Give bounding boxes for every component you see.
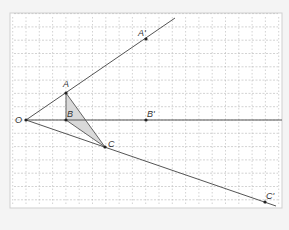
homothety-diagram: OABCA'B'C' — [0, 0, 289, 230]
label-b2: B' — [147, 109, 155, 119]
label-a2: A' — [137, 28, 146, 38]
point-a — [64, 91, 67, 94]
label-c: C — [108, 139, 115, 149]
label-a: A — [62, 79, 69, 89]
label-c2: C' — [266, 191, 274, 201]
label-o: O — [15, 115, 22, 125]
grid — [13, 14, 279, 204]
label-b: B — [67, 109, 73, 119]
point-o — [24, 118, 27, 121]
point-c — [103, 145, 106, 148]
